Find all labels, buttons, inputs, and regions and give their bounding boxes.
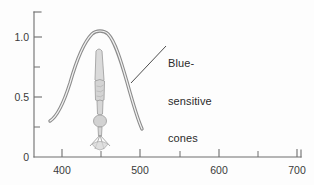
x-tick-label-600: 600 [210, 164, 228, 176]
cone-photoreceptor-icon [90, 49, 110, 150]
x-tick-label-500: 500 [131, 164, 149, 176]
x-tick-label-400: 400 [53, 164, 71, 176]
annotation-leader-line [131, 46, 166, 83]
annotation-blue-sensitive-cones: Blue- sensitive cones [168, 32, 212, 170]
y-tick-label-0.5: 0.5 [14, 91, 29, 103]
y-tick-group [34, 37, 42, 127]
annotation-line-1: Blue- [168, 57, 212, 70]
y-tick-label-0: 0 [23, 151, 29, 163]
spectral-sensitivity-figure: 1.0 0.5 0 400 500 600 700 [0, 0, 314, 185]
annotation-line-3: cones [168, 132, 212, 145]
y-tick-label-1: 1.0 [14, 31, 29, 43]
plot-canvas: 1.0 0.5 0 400 500 600 700 [0, 0, 314, 185]
annotation-line-2: sensitive [168, 95, 212, 108]
x-tick-label-700: 700 [288, 164, 306, 176]
